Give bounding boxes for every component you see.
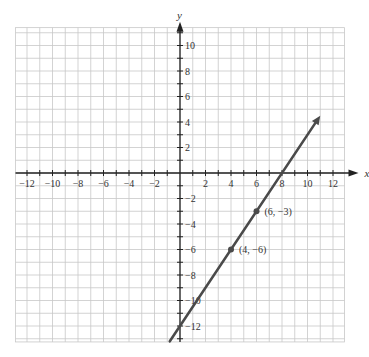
y-tick-label: 8 bbox=[185, 66, 190, 77]
x-tick-label: 4 bbox=[229, 178, 234, 189]
y-tick-label: −8 bbox=[185, 270, 196, 281]
x-tick-label: −10 bbox=[45, 178, 61, 189]
line-graph bbox=[170, 123, 315, 341]
y-axis-arrow-icon bbox=[177, 22, 184, 32]
data-point bbox=[254, 208, 260, 214]
data-point bbox=[228, 247, 234, 253]
y-tick-label: −2 bbox=[185, 193, 196, 204]
x-tick-label: 10 bbox=[303, 178, 313, 189]
x-tick-label: 2 bbox=[203, 178, 208, 189]
x-tick-label: 6 bbox=[254, 178, 259, 189]
point-label: (4, −6) bbox=[239, 244, 266, 256]
x-tick-label: 12 bbox=[328, 178, 338, 189]
y-tick-label: 4 bbox=[185, 117, 190, 128]
y-tick-label: 2 bbox=[185, 142, 190, 153]
x-axis-label: x bbox=[363, 167, 369, 179]
x-tick-label: −2 bbox=[149, 178, 160, 189]
y-axis-label: y bbox=[176, 9, 182, 21]
coordinate-plane: −12−10−8−6−4−224681012−12−10−8−6−4−22468… bbox=[0, 0, 369, 357]
x-tick-label: −12 bbox=[19, 178, 35, 189]
x-tick-label: −8 bbox=[73, 178, 84, 189]
y-tick-label: −12 bbox=[185, 321, 201, 332]
x-tick-label: −6 bbox=[98, 178, 109, 189]
x-tick-label: 8 bbox=[280, 178, 285, 189]
point-label: (6, −3) bbox=[265, 206, 292, 218]
y-tick-label: −4 bbox=[185, 219, 196, 230]
y-tick-label: 6 bbox=[185, 91, 190, 102]
x-axis-arrow-icon bbox=[348, 170, 358, 177]
y-tick-label: 10 bbox=[185, 40, 195, 51]
x-tick-label: −4 bbox=[124, 178, 135, 189]
y-tick-label: −6 bbox=[185, 244, 196, 255]
